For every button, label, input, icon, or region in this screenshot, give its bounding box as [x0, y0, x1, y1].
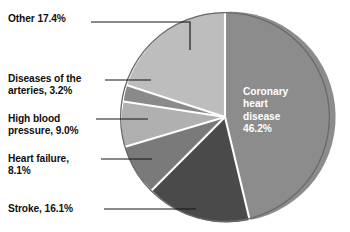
pie-label-stroke: Stroke, 16.1%: [8, 203, 73, 215]
pie-label-coronary-heart-disease: Coronary heart disease 46.2%: [243, 86, 288, 136]
pie-label-diseases-of-the-arteries: Diseases of the arteries, 3.2%: [8, 73, 81, 97]
pie-label-heart-failure: Heart failure, 8.1%: [8, 153, 69, 177]
pie-label-high-blood-pressure: High blood pressure, 9.0%: [8, 113, 79, 137]
pie-slices: [122, 12, 336, 223]
pie-chart-figure: Other 17.4% Diseases of the arteries, 3.…: [0, 0, 350, 232]
pie-label-other: Other 17.4%: [8, 13, 66, 25]
